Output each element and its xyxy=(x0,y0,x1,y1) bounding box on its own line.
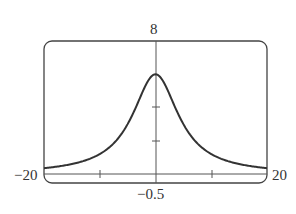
x-min-label: −20 xyxy=(14,168,37,183)
y-min-label: −0.5 xyxy=(137,187,164,202)
chart-canvas xyxy=(0,0,296,214)
y-max-label: 8 xyxy=(150,22,158,37)
x-max-label: 20 xyxy=(272,168,287,183)
